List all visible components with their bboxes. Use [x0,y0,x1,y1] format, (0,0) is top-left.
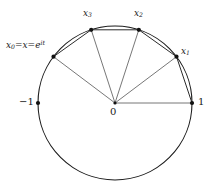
chord-x1-one [177,57,193,103]
radius-lines-group [54,30,193,103]
label-x1: x1 [181,47,190,56]
marked-points-group [36,28,194,105]
label-one: 1 [198,97,204,107]
label-minus-one: −1 [19,97,34,107]
label-origin: 0 [110,107,116,117]
label-x3: x3 [83,9,92,18]
chord-x2-x1 [139,30,177,57]
label-x2-subscript: 2 [139,11,143,18]
point-x2 [137,28,141,32]
radius-to-x2 [115,30,139,103]
chord-path-group [54,30,193,103]
label-x0-exponent: it [40,39,44,46]
label-x3-subscript: 3 [88,11,92,18]
chord-x0-x3 [54,30,92,57]
radius-to-x1 [115,57,177,103]
point-minus-one [36,101,40,105]
label-x2: x2 [134,9,143,18]
radius-to-x0 [54,57,116,103]
label-x0-equals-1: = [15,40,23,50]
point-x3 [89,28,93,32]
point-x1 [174,55,178,59]
label-x0-equals-2: = [28,40,36,50]
point-x0 [51,55,55,59]
point-origin [113,101,116,104]
label-x0: x0=x=eit [6,40,45,50]
radius-to-x3 [91,30,115,103]
label-x1-subscript: 1 [186,49,190,56]
unit-circle-figure: x0=x=eit x3 x2 x1 −1 1 0 [0,0,214,195]
point-one [190,101,194,105]
